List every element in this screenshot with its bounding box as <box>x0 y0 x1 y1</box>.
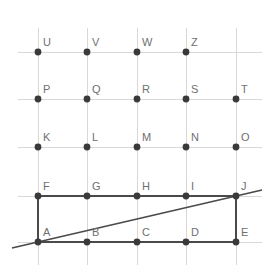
lattice-dot-m <box>134 144 141 151</box>
point-label-f: F <box>43 180 50 192</box>
point-label-n: N <box>191 131 199 143</box>
lattice-dot-n <box>183 144 190 151</box>
lattice-dot-z <box>183 49 190 56</box>
point-label-l: L <box>92 131 98 143</box>
point-labels: UVWZPQRSTKLMNOFGHIJABCDE <box>43 36 250 238</box>
lattice-dot-i <box>183 193 190 200</box>
lattice-dot-c <box>134 239 141 246</box>
lattice-dot-v <box>84 49 91 56</box>
point-label-k: K <box>43 131 51 143</box>
point-label-z: Z <box>191 36 198 48</box>
point-label-s: S <box>191 83 199 95</box>
point-label-i: I <box>191 180 194 192</box>
geometry-diagram: UVWZPQRSTKLMNOFGHIJABCDE <box>0 0 273 277</box>
point-label-c: C <box>142 226 150 238</box>
lattice-dot-o <box>233 144 240 151</box>
diagram-canvas: UVWZPQRSTKLMNOFGHIJABCDE <box>0 0 273 277</box>
point-label-a: A <box>43 226 51 238</box>
lattice-dot-a <box>35 239 42 246</box>
point-label-q: Q <box>92 83 101 95</box>
lattice-dot-u <box>35 49 42 56</box>
point-label-b: B <box>92 226 100 238</box>
point-label-m: M <box>142 131 151 143</box>
lattice-dot-s <box>183 96 190 103</box>
point-label-g: G <box>92 180 101 192</box>
lattice-dot-f <box>35 193 42 200</box>
lattice-dot-j <box>233 193 240 200</box>
lattice-dot-h <box>134 193 141 200</box>
lattice-dot-e <box>233 239 240 246</box>
lattice-dot-l <box>84 144 91 151</box>
point-label-w: W <box>142 36 153 48</box>
lattice-dot-p <box>35 96 42 103</box>
point-label-p: P <box>43 83 51 95</box>
point-label-t: T <box>241 83 248 95</box>
lattice-dot-b <box>84 239 91 246</box>
point-label-e: E <box>241 226 249 238</box>
lattice-dot-k <box>35 144 42 151</box>
point-label-r: R <box>142 83 150 95</box>
point-label-d: D <box>191 226 199 238</box>
lattice-dot-d <box>183 239 190 246</box>
point-label-j: J <box>241 180 247 192</box>
lattice-dot-t <box>233 96 240 103</box>
point-label-u: U <box>43 36 51 48</box>
lattice-dot-q <box>84 96 91 103</box>
point-label-o: O <box>241 131 250 143</box>
lattice-dot-w <box>134 49 141 56</box>
point-label-h: H <box>142 180 150 192</box>
point-label-v: V <box>92 36 100 48</box>
lattice-dot-r <box>134 96 141 103</box>
lattice-dot-g <box>84 193 91 200</box>
